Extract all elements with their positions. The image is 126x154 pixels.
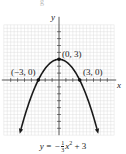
parabola-graph: [0, 0, 126, 154]
vertex-label: (0, 3): [62, 50, 82, 59]
right-intercept-label: (3, 0): [83, 68, 103, 77]
equation-fraction: 13: [61, 140, 64, 153]
x-axis-label: x: [117, 81, 121, 90]
equation-label: y = −13x2 + 3: [0, 140, 126, 153]
y-axis-label: y: [51, 13, 55, 22]
equation-rest: + 3: [72, 141, 86, 151]
equation-lhs: y = −: [40, 141, 61, 151]
left-intercept-label: (−3, 0): [11, 68, 36, 77]
